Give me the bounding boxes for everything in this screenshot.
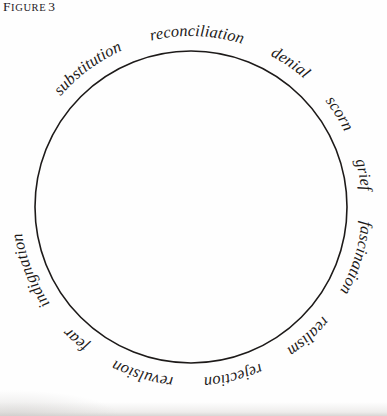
- ring-word-group: substitution reconciliation denial scorn…: [0, 0, 377, 393]
- figure-page: FIGURE3 substitution reconciliation deni…: [0, 0, 387, 416]
- diagram-circle-outline: [35, 51, 347, 363]
- ring-word-text: substitution reconciliation denial scorn…: [0, 0, 377, 393]
- word-circle-diagram: substitution reconciliation denial scorn…: [0, 0, 387, 416]
